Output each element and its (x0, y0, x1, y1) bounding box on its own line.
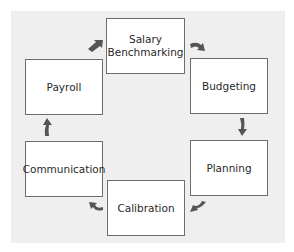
node-communication: Communication (25, 141, 103, 197)
arrow-payroll-to-salary-icon (87, 39, 105, 53)
node-label: Budgeting (202, 80, 256, 93)
node-label-line2: Benchmarking (107, 46, 183, 59)
arrow-salary-to-budgeting-icon (189, 39, 207, 53)
node-label: Planning (206, 162, 251, 175)
node-budgeting: Budgeting (190, 58, 268, 114)
node-payroll: Payroll (25, 59, 103, 115)
node-label: Calibration (117, 202, 174, 215)
node-calibration: Calibration (107, 180, 185, 236)
node-planning: Planning (190, 140, 268, 196)
node-label: Payroll (47, 81, 82, 94)
node-salary-benchmarking: Salary Benchmarking (106, 18, 185, 74)
node-label-line1: Salary (129, 33, 162, 46)
arrow-calibration-to-communication-icon (86, 201, 104, 215)
node-label: Communication (23, 163, 106, 176)
arrow-planning-to-calibration-icon (189, 200, 207, 214)
arrow-communication-to-payroll-icon (41, 117, 53, 137)
arrow-budgeting-to-planning-icon (236, 117, 248, 137)
